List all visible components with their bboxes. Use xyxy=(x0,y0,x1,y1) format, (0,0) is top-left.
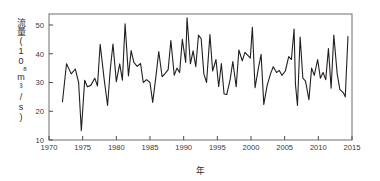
y-axis-tick-labels: 1020304050 xyxy=(36,21,44,145)
x-tick-label-2005: 2005 xyxy=(276,143,293,152)
y-tick-label-30: 30 xyxy=(36,78,44,87)
data-series-group xyxy=(62,18,347,131)
x-tick-label-1995: 1995 xyxy=(209,143,226,152)
x-tick-label-2015: 2015 xyxy=(344,143,361,152)
x-tick-label-1980: 1980 xyxy=(108,143,125,152)
chart-figure: 1020304050 19701975198019851990199520002… xyxy=(0,0,380,181)
x-tick-label-2010: 2010 xyxy=(310,143,327,152)
plot-frame xyxy=(49,14,352,140)
x-axis-tick-labels: 1970197519801985199019952000200520102015 xyxy=(41,143,361,152)
discharge-line xyxy=(62,18,347,131)
x-tick-label-1990: 1990 xyxy=(175,143,192,152)
y-tick-label-40: 40 xyxy=(36,50,44,59)
x-tick-label-1975: 1975 xyxy=(74,143,91,152)
y-axis-ticks xyxy=(49,25,53,140)
x-axis-ticks xyxy=(49,136,352,140)
discharge-time-series-chart: 1020304050 19701975198019851990199520002… xyxy=(0,0,380,181)
x-axis-title: 年 xyxy=(196,165,205,176)
x-tick-label-1970: 1970 xyxy=(41,143,58,152)
y-tick-label-50: 50 xyxy=(36,21,44,30)
x-tick-label-1985: 1985 xyxy=(142,143,159,152)
y-tick-label-20: 20 xyxy=(36,107,44,116)
x-tick-label-2000: 2000 xyxy=(243,143,260,152)
